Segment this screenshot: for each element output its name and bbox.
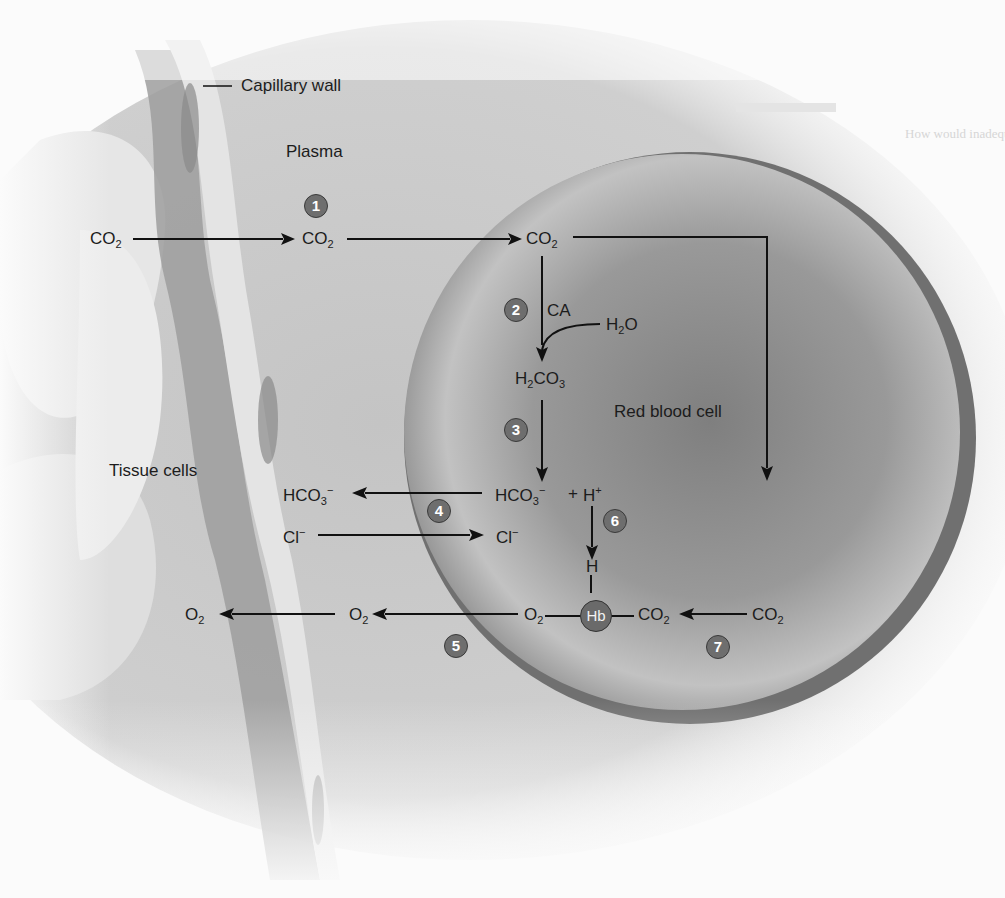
tissue-cells-label: Tissue cells [109, 462, 197, 479]
cl-rbc: Cl− [496, 527, 519, 546]
step-4-badge: 4 [427, 499, 451, 523]
endothelial-nucleus-1 [181, 83, 199, 173]
red-blood-cell-label: Red blood cell [614, 403, 722, 420]
hco3-plasma: HCO3− [283, 485, 333, 507]
h-bound: H [586, 558, 598, 575]
co2-plasma: CO2 [302, 230, 334, 250]
h2co3: H2CO3 [515, 370, 565, 390]
plus-sign: + [568, 485, 578, 502]
step-7-badge: 7 [706, 635, 730, 659]
o2-tissue: O2 [185, 606, 204, 626]
carbonic-anhydrase-label: CA [547, 302, 571, 319]
o2-bound: O2 [524, 606, 543, 626]
h2o: H2O [606, 316, 638, 336]
ghost-text-1: How would inadequate ... affect the diff… [905, 126, 1005, 142]
step-6-badge: 6 [603, 509, 627, 533]
hco3-rbc: HCO3− [495, 485, 545, 507]
co2-rbc-free: CO2 [752, 606, 784, 626]
step-3-badge: 3 [504, 418, 528, 442]
step-1-badge: 1 [304, 194, 328, 218]
cl-plasma: Cl− [283, 527, 306, 546]
co2-tissue: CO2 [90, 230, 122, 250]
capillary-wall-label: Capillary wall [241, 77, 341, 94]
gas-exchange-diagram: How would inadequate ... affect the diff… [0, 0, 1005, 898]
co2-rbc-entry: CO2 [526, 230, 558, 250]
diagram-background [0, 0, 1005, 898]
ghost-header-bar [736, 103, 836, 112]
step-2-badge: 2 [504, 298, 528, 322]
h-ion: H+ [583, 485, 602, 504]
hemoglobin: Hb [580, 600, 612, 632]
o2-plasma: O2 [349, 606, 368, 626]
plasma-label: Plasma [286, 143, 343, 160]
co2-bound: CO2 [638, 606, 670, 626]
endothelial-nucleus-2 [258, 376, 278, 464]
step-5-badge: 5 [444, 634, 468, 658]
